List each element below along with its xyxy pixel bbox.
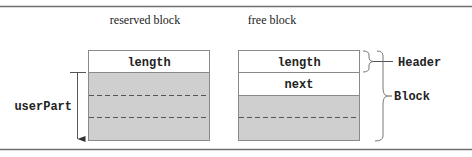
- memory-block-diagram: reserved block free block length userPar…: [0, 0, 472, 157]
- free-next-label: next: [285, 78, 314, 92]
- free-block: length next: [239, 51, 360, 141]
- user-part-arrow: userPart: [14, 73, 86, 140]
- user-part-label: userPart: [14, 100, 72, 114]
- reserved-user-part-area: [89, 73, 210, 141]
- reserved-block-title: reserved block: [110, 13, 180, 27]
- free-length-label: length: [277, 56, 320, 70]
- header-annotation: Header: [398, 56, 441, 70]
- free-block-title: free block: [248, 13, 296, 27]
- block-annotation: Block: [394, 90, 430, 104]
- block-brace: [375, 51, 387, 141]
- reserved-length-label: length: [127, 56, 170, 70]
- reserved-block: length: [89, 51, 210, 141]
- header-brace: [363, 51, 373, 72]
